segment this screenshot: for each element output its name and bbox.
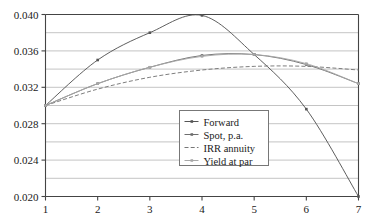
x-tick-label: 7 [356,203,362,215]
y-tick-label: 0.040 [14,9,39,21]
x-tick-label: 2 [95,203,101,215]
y-tick-label: 0.020 [14,191,39,203]
legend-item-label: Forward [204,117,240,128]
chart-container: 0.0400.0360.0320.0280.0240.020 1234567 F… [0,0,375,220]
legend-item-label: Spot, p.a. [204,130,244,141]
y-tick-label: 0.032 [14,81,39,93]
y-tick-label: 0.028 [14,118,39,130]
data-point-marker [149,66,152,69]
line-chart: 0.0400.0360.0320.0280.0240.020 1234567 F… [0,0,375,220]
legend-swatch-marker [191,159,194,162]
data-point-marker [44,104,47,107]
data-point-marker [201,14,204,17]
legend-swatch-marker [191,133,194,136]
data-point-marker [253,53,256,56]
data-point-marker [357,82,360,85]
data-point-marker [96,59,99,62]
data-point-marker [357,195,360,198]
data-point-marker [305,108,308,111]
y-tick-label: 0.036 [14,45,39,57]
chart-legend: ForwardSpot, p.a.IRR annuityYield at par [180,111,269,167]
x-tick-label: 4 [199,203,205,215]
legend-item-label: IRR annuity [204,143,256,154]
legend-item-label: Yield at par [204,156,253,167]
x-tick-label: 1 [43,203,49,215]
data-point-marker [201,55,204,58]
x-tick-label: 3 [147,203,153,215]
legend-swatch-marker [191,120,194,123]
data-point-marker [96,82,99,85]
x-tick-label: 5 [251,203,257,215]
data-point-marker [149,31,152,34]
x-tick-label: 6 [304,203,310,215]
data-point-marker [305,62,308,65]
y-tick-label: 0.024 [14,154,39,166]
